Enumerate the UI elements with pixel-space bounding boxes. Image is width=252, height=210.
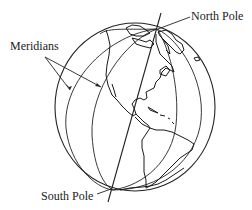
north-pole-pointer [158,17,190,29]
south-pole-label: South Pole [41,190,93,202]
north-pole-label: North Pole [191,10,243,22]
south-pole-pointer [97,189,111,194]
greenland [158,30,184,54]
arctic-islands [126,25,150,36]
arctic-island-2 [132,38,154,48]
cuba [148,107,158,113]
meridian-1 [66,29,157,190]
central-america [135,114,150,128]
meridian-4 [113,29,177,190]
hudson-bay [160,66,170,76]
meridians-label: Meridians [10,40,59,52]
caribbean-islands [160,115,174,124]
globe-diagram: North Pole Meridians South Pole [0,0,252,210]
globe-illustration [0,0,252,210]
